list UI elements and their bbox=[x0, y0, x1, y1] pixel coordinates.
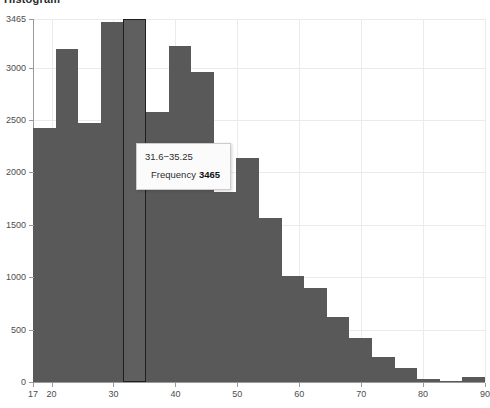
tooltip-metric-label: Frequency bbox=[151, 169, 196, 180]
y-axis-label: 0 bbox=[0, 377, 26, 387]
x-axis-label: 90 bbox=[480, 389, 490, 399]
x-axis-tick bbox=[175, 383, 176, 387]
tooltip-metric-value: 3465 bbox=[199, 169, 220, 180]
x-axis-tick bbox=[33, 383, 34, 387]
histogram-bar[interactable] bbox=[282, 276, 305, 382]
y-axis-tick bbox=[29, 330, 34, 331]
gridline-vertical bbox=[485, 19, 486, 382]
histogram-bar[interactable] bbox=[214, 192, 237, 382]
x-axis-tick bbox=[299, 383, 300, 387]
bars-layer bbox=[33, 19, 485, 382]
y-axis-tick bbox=[29, 19, 34, 20]
x-axis-line bbox=[33, 382, 485, 383]
y-axis-tick bbox=[29, 277, 34, 278]
histogram-bar[interactable] bbox=[259, 218, 282, 382]
plot-area bbox=[33, 19, 485, 382]
y-axis-label: 2500 bbox=[0, 115, 26, 125]
y-axis-tick bbox=[29, 120, 34, 121]
x-axis-label: 40 bbox=[170, 389, 180, 399]
x-axis-tick bbox=[423, 383, 424, 387]
y-axis-tick bbox=[29, 68, 34, 69]
histogram-bar[interactable] bbox=[169, 46, 192, 382]
histogram-bar[interactable] bbox=[78, 123, 101, 382]
y-axis-tick bbox=[29, 172, 34, 173]
x-axis-tick bbox=[485, 383, 486, 387]
x-axis-label: 60 bbox=[294, 389, 304, 399]
x-axis-label: 70 bbox=[356, 389, 366, 399]
histogram-bar-selected[interactable] bbox=[123, 19, 146, 382]
page-title: Histogram bbox=[4, 0, 60, 5]
x-axis-label: 20 bbox=[47, 389, 57, 399]
x-axis-label: 30 bbox=[108, 389, 118, 399]
x-axis-tick bbox=[361, 383, 362, 387]
histogram-bar[interactable] bbox=[33, 128, 56, 382]
histogram-bar[interactable] bbox=[349, 338, 372, 382]
x-axis-label: 80 bbox=[418, 389, 428, 399]
histogram-bar[interactable] bbox=[417, 379, 440, 382]
x-axis-tick bbox=[113, 383, 114, 387]
y-axis-label: 3000 bbox=[0, 63, 26, 73]
y-axis-label: 3465 bbox=[0, 14, 26, 24]
y-axis-label: 1500 bbox=[0, 220, 26, 230]
histogram-bar[interactable] bbox=[236, 158, 259, 382]
y-axis-label: 500 bbox=[0, 325, 26, 335]
histogram-bar[interactable] bbox=[372, 357, 395, 382]
x-axis-label: 17 bbox=[28, 389, 38, 399]
histogram-bar[interactable] bbox=[462, 377, 485, 382]
x-axis-tick bbox=[52, 383, 53, 387]
y-axis-tick bbox=[29, 225, 34, 226]
histogram-bar[interactable] bbox=[56, 49, 79, 382]
histogram-bar[interactable] bbox=[395, 368, 418, 382]
x-axis-tick bbox=[237, 383, 238, 387]
histogram-bar[interactable] bbox=[101, 22, 124, 382]
y-axis-label: 2000 bbox=[0, 167, 26, 177]
histogram-bar[interactable] bbox=[304, 288, 327, 382]
x-axis-label: 50 bbox=[232, 389, 242, 399]
histogram-bar[interactable] bbox=[191, 72, 214, 382]
y-axis-label: 1000 bbox=[0, 272, 26, 282]
tooltip: 31.6−35.25 Frequency3465 bbox=[136, 143, 231, 190]
tooltip-metric-row: Frequency3465 bbox=[145, 168, 220, 183]
histogram-bar[interactable] bbox=[440, 381, 463, 382]
histogram-bar[interactable] bbox=[327, 317, 350, 382]
tooltip-range-label: 31.6−35.25 bbox=[145, 150, 220, 165]
